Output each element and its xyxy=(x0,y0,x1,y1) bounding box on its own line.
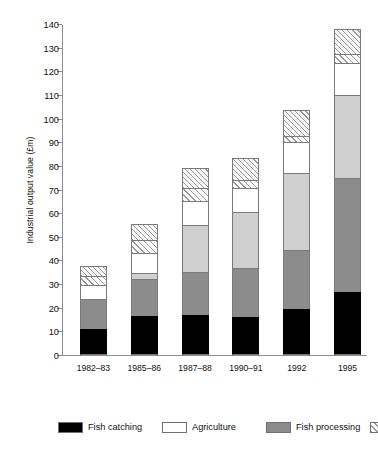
legend-label: Agriculture xyxy=(192,422,236,432)
bar-segment-fish-catching xyxy=(334,292,361,355)
bar-5 xyxy=(283,110,310,355)
bar-segment-fish-processing xyxy=(80,299,107,329)
bar-segment-fish-processing xyxy=(334,178,361,293)
bar-segment-fish-catching xyxy=(283,309,310,355)
bar-segment-tourism xyxy=(334,29,361,54)
bar-segment-fish-catching xyxy=(80,329,107,355)
y-axis-tick-label: 100 xyxy=(19,116,59,125)
bar-4 xyxy=(232,158,259,355)
legend-label: Fish catching xyxy=(88,422,142,432)
legend-label: Fish processing xyxy=(296,422,360,432)
legend-swatch-icon xyxy=(162,422,187,433)
bar-segment-tourism xyxy=(182,168,209,188)
y-axis-tick-label: 60 xyxy=(19,210,59,219)
y-axis-tick-label: 140 xyxy=(19,21,59,30)
bar-segment-agriculture xyxy=(283,142,310,173)
bar-segment-salmon-fishing xyxy=(182,225,209,272)
bar-segment-fish-processing xyxy=(131,279,158,316)
bar-segment-knitwear xyxy=(232,180,259,188)
y-axis-tick-label: 90 xyxy=(19,139,59,148)
plot-area: 0102030405060708090100110120130140 1982–… xyxy=(62,25,367,356)
bar-segment-tourism xyxy=(131,224,158,241)
bar-segment-knitwear xyxy=(334,54,361,63)
legend-item-fish-catching[interactable]: Fish catching xyxy=(58,422,162,433)
y-axis-tick-label: 40 xyxy=(19,257,59,266)
bar-segment-tourism xyxy=(80,266,107,275)
legend-item-knitwear[interactable]: Knitwear xyxy=(370,422,378,433)
bar-segment-salmon-fishing xyxy=(283,173,310,250)
y-axis-tick-label: 30 xyxy=(19,281,59,290)
y-axis-tick-label: 20 xyxy=(19,305,59,314)
legend-swatch-icon xyxy=(266,422,291,433)
bar-segment-agriculture xyxy=(182,201,209,225)
bar-segment-agriculture xyxy=(80,285,107,299)
bar-segment-fish-catching xyxy=(182,315,209,355)
bar-segment-salmon-fishing xyxy=(334,95,361,178)
bar-segment-knitwear xyxy=(131,240,158,253)
bar-2 xyxy=(131,224,158,355)
bar-segment-agriculture xyxy=(131,253,158,273)
bar-segment-tourism xyxy=(232,158,259,180)
y-axis-tick-label: 80 xyxy=(19,163,59,172)
bar-6 xyxy=(334,29,361,355)
bar-3 xyxy=(182,168,209,355)
bar-segment-fish-processing xyxy=(182,272,209,315)
bar-segment-agriculture xyxy=(334,63,361,95)
y-axis-tick-label: 120 xyxy=(19,68,59,77)
bar-segment-salmon-fishing xyxy=(232,212,259,268)
legend-item-fish-processing[interactable]: Fish processing xyxy=(266,422,370,433)
y-axis-tick-label: 0 xyxy=(19,352,59,361)
y-axis-tick-label: 110 xyxy=(19,92,59,101)
bar-segment-fish-catching xyxy=(232,317,259,355)
y-axis-tick-label: 50 xyxy=(19,234,59,243)
stacked-bar-chart: Industrial output value (£m) 01020304050… xyxy=(0,0,378,468)
y-axis-line xyxy=(62,25,63,356)
bar-segment-tourism xyxy=(283,110,310,136)
y-axis-tick-label: 70 xyxy=(19,187,59,196)
x-axis-line xyxy=(62,355,367,356)
bar-segment-knitwear xyxy=(182,188,209,201)
y-axis-tick-label: 130 xyxy=(19,45,59,54)
chart-legend: Fish catchingAgricultureFish processingK… xyxy=(58,420,370,434)
x-axis-tick-label: 1995 xyxy=(318,363,378,373)
bar-segment-fish-processing xyxy=(232,268,259,318)
bar-segment-fish-catching xyxy=(131,316,158,355)
y-axis-tick-label: 10 xyxy=(19,328,59,337)
legend-swatch-icon xyxy=(58,422,83,433)
bar-segment-knitwear xyxy=(80,276,107,285)
bar-1 xyxy=(80,266,107,355)
bar-segment-fish-processing xyxy=(283,250,310,309)
bar-segment-agriculture xyxy=(232,188,259,212)
legend-item-agriculture[interactable]: Agriculture xyxy=(162,422,266,433)
legend-swatch-icon xyxy=(370,422,378,433)
